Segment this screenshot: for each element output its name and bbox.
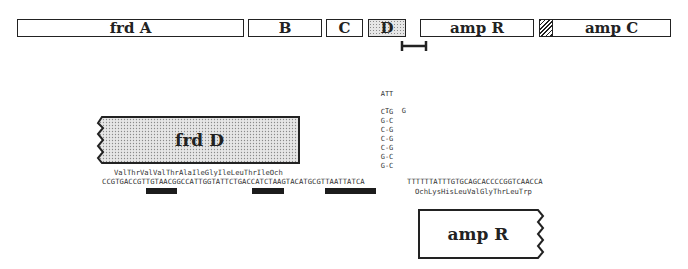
amp-r-protein-end: OchLysHisLeuValGlyThrLeuTrp <box>415 187 532 196</box>
gene-frd-d: D <box>368 19 406 37</box>
interval-bracket-icon <box>400 38 428 54</box>
gene-frd-c-label: C <box>339 21 351 36</box>
gene-amp-r: amp R <box>420 19 534 37</box>
stem-pair: C-G <box>367 135 407 143</box>
frd-d-box: frd D <box>100 117 299 163</box>
dna-sequence-left: CCGTGACCGTTGTAACGGCCATTGGTATTCTGACCATCTA… <box>102 177 365 186</box>
sequence-feature-bar-2 <box>252 188 284 194</box>
gene-frd-a-label: frd A <box>110 21 152 36</box>
amp-r-box: amp R <box>419 210 537 258</box>
stem-pair: C-G <box>367 126 407 134</box>
gene-amp-c: amp C <box>539 19 671 37</box>
gene-amp-r-label: amp R <box>450 21 504 36</box>
stem-pair: G-C <box>367 153 407 161</box>
gene-frd-a: frd A <box>17 19 244 37</box>
gene-amp-c-label: amp C <box>585 21 638 36</box>
stem-pair: G-C <box>367 117 407 125</box>
hairpin-loop-top: ATT <box>367 90 407 98</box>
frd-d-box-label: frd D <box>175 130 224 150</box>
gene-frd-d-label: D <box>380 21 393 36</box>
sequence-feature-bar-1 <box>146 188 177 194</box>
stem-pair: C-G <box>367 144 407 152</box>
gene-frd-b: B <box>248 19 322 37</box>
frd-d-protein-end: ValThrValValThrAlaIleGlyIleLeuThrIleOch <box>114 168 283 177</box>
gene-frd-c: C <box>326 19 363 37</box>
hatched-start-marker <box>540 20 553 36</box>
dna-sequence-right: TTTTTTATTTGTGCAGCACCCCGGTCAACCA <box>407 177 543 186</box>
amp-r-box-label: amp R <box>448 224 509 244</box>
gene-frd-b-label: B <box>279 21 292 36</box>
sequence-feature-bar-3 <box>325 188 376 194</box>
stem-pair: G-C <box>367 162 407 170</box>
stem-pair: C-G <box>367 108 407 116</box>
